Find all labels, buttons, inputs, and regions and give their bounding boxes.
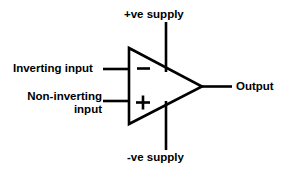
non-inverting-input-label-line2: input xyxy=(74,103,102,115)
negative-supply-label: -ve supply xyxy=(127,151,184,164)
op-amp-diagram: +ve supply -ve supply Inverting input No… xyxy=(0,0,289,173)
inverting-input-label: Inverting input xyxy=(13,62,93,75)
non-inverting-input-label: Non-invertinginput xyxy=(18,90,102,116)
output-label: Output xyxy=(236,80,274,93)
positive-supply-label: +ve supply xyxy=(124,8,184,21)
non-inverting-input-label-line1: Non-inverting xyxy=(27,90,102,102)
